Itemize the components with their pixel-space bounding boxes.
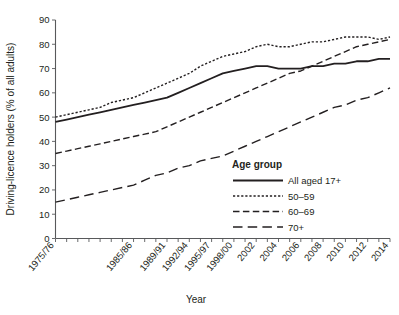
series-line-1 bbox=[56, 37, 391, 117]
legend: Age group All aged 17+50–5960–6970+ bbox=[232, 159, 342, 233]
y-tick-label: 40 bbox=[39, 136, 50, 147]
x-axis-title: Year bbox=[186, 294, 207, 305]
x-axis-group: 1975/761985/861989/911992/941995/971998/… bbox=[26, 239, 391, 306]
legend-label-2: 60–69 bbox=[288, 206, 314, 217]
y-tick-label: 20 bbox=[39, 184, 50, 195]
legend-label-1: 50–59 bbox=[288, 191, 314, 202]
legend-items: All aged 17+50–5960–6970+ bbox=[233, 175, 342, 233]
legend-label-3: 70+ bbox=[288, 222, 305, 233]
y-axis-group: 0102030405060708090 Driving-licence hold… bbox=[5, 14, 56, 244]
x-tick-label: 2014 bbox=[369, 240, 391, 263]
legend-label-0: All aged 17+ bbox=[288, 175, 342, 186]
y-axis-title: Driving-licence holders (% of all adults… bbox=[5, 43, 16, 216]
x-tick-label: 2008 bbox=[302, 240, 324, 263]
x-tick-labels: 1975/761985/861989/911992/941995/971998/… bbox=[26, 240, 391, 273]
y-tick-labels: 0102030405060708090 bbox=[39, 14, 50, 244]
y-tick-label: 10 bbox=[39, 209, 50, 220]
legend-title: Age group bbox=[232, 159, 282, 170]
x-tick-label: 2002 bbox=[235, 240, 257, 263]
x-tick-label: 2010 bbox=[324, 240, 346, 263]
x-tick-label: 2004 bbox=[257, 240, 279, 263]
y-tick-label: 80 bbox=[39, 39, 50, 50]
x-tick-label: 1985/86 bbox=[104, 240, 135, 273]
x-tick-label: 1975/76 bbox=[26, 240, 57, 273]
series-line-2 bbox=[56, 39, 391, 153]
y-tick-label: 60 bbox=[39, 87, 50, 98]
y-tick-label: 90 bbox=[39, 14, 50, 25]
series-line-0 bbox=[56, 59, 391, 122]
x-tick-label: 2006 bbox=[279, 240, 301, 263]
line-chart-svg: 0102030405060708090 Driving-licence hold… bbox=[0, 0, 399, 315]
x-tick-label: 2012 bbox=[346, 240, 368, 263]
y-tick-label: 30 bbox=[39, 160, 50, 171]
chart-figure: 0102030405060708090 Driving-licence hold… bbox=[0, 0, 399, 315]
y-tick-label: 50 bbox=[39, 112, 50, 123]
y-tick-label: 70 bbox=[39, 63, 50, 74]
